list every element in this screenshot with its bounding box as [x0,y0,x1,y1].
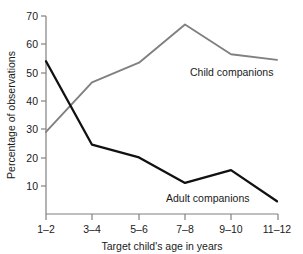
series-annotation-child-companions: Child companions [190,66,273,78]
x-tick-label-3: 7–8 [176,223,194,235]
x-tick-label-2: 5–6 [130,223,148,235]
y-tick-label-50: 50 [26,67,38,79]
series-annotation-adult-companions: Adult companions [166,192,249,204]
data-series-group [46,24,277,201]
x-axis-tick-labels: 1–2 3–4 5–6 7–8 9–10 11–12 [37,223,291,235]
y-tick-label-60: 60 [26,38,38,50]
y-tick-label-30: 30 [26,123,38,135]
x-tick-label-4: 9–10 [219,223,243,235]
y-tick-label-40: 40 [26,95,38,107]
x-axis-title: Target child's age in years [101,240,222,252]
y-tick-label-70: 70 [26,10,38,22]
line-chart: 70 60 50 40 30 20 10 1–2 3–4 5–6 7–8 9–1… [0,0,303,254]
y-tick-label-10: 10 [26,180,38,192]
y-tick-label-20: 20 [26,152,38,164]
series-line-child-companions [46,24,277,131]
y-axis-title: Percentage of observations [5,51,17,179]
x-tick-label-5: 11–12 [263,223,292,235]
x-tick-label-0: 1–2 [37,223,55,235]
series-line-adult-companions [46,61,277,201]
x-tick-label-1: 3–4 [83,223,101,235]
chart-canvas: 70 60 50 40 30 20 10 1–2 3–4 5–6 7–8 9–1… [0,0,303,254]
y-axis-tick-labels: 70 60 50 40 30 20 10 [26,10,38,192]
axis-spines [46,16,278,214]
y-axis-ticks [41,16,46,186]
x-axis-ticks [46,214,278,220]
